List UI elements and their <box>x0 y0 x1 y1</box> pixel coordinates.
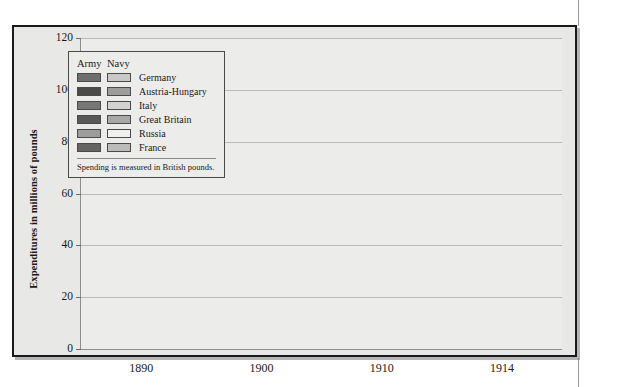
legend-item-france: France <box>77 140 216 154</box>
bar-group-1910: 1910 <box>329 38 435 349</box>
legend-label: Italy <box>139 100 157 111</box>
legend-swatch-navy <box>107 73 131 82</box>
y-tick-mark <box>76 349 81 350</box>
x-axis-label-1900: 1900 <box>208 361 314 376</box>
legend-item-austria-hungary: Austria-Hungary <box>77 84 216 98</box>
legend-label: Great Britain <box>139 114 191 125</box>
legend-item-italy: Italy <box>77 98 216 112</box>
legend-entries: GermanyAustria-HungaryItalyGreat Britain… <box>77 70 216 154</box>
y-tick-label: 20 <box>62 291 74 303</box>
legend-item-germany: Germany <box>77 70 216 84</box>
y-tick-label: 60 <box>62 188 74 200</box>
legend-item-russia: Russia <box>77 126 216 140</box>
legend-swatch-navy <box>107 115 131 124</box>
legend-label: Austria-Hungary <box>139 86 207 97</box>
x-axis-label-1914: 1914 <box>449 361 555 376</box>
legend-label: France <box>139 142 166 153</box>
legend-label: Russia <box>139 128 166 139</box>
page-margin-rule-top <box>578 0 579 26</box>
chart-figure-frame: Expenditures in millions of pounds 02040… <box>12 25 577 357</box>
x-axis-label-1910: 1910 <box>329 361 435 376</box>
legend-header: Army Navy <box>77 58 216 69</box>
legend-swatch-army <box>77 115 101 124</box>
legend-label: Germany <box>139 72 176 83</box>
bar-group-1914: 1914 <box>449 38 555 349</box>
page-margin-rule-bottom <box>578 358 579 387</box>
legend-swatch-navy <box>107 129 131 138</box>
y-tick-label: 40 <box>62 240 74 252</box>
legend-swatch-navy <box>107 101 131 110</box>
legend-note: Spending is measured in British pounds. <box>77 158 216 172</box>
legend-swatch-navy <box>107 143 131 152</box>
legend-swatch-navy <box>107 87 131 96</box>
legend-item-great-britain: Great Britain <box>77 112 216 126</box>
y-tick-label: 120 <box>56 32 73 44</box>
x-axis-label-1890: 1890 <box>88 361 194 376</box>
legend-swatch-army <box>77 143 101 152</box>
legend-swatch-army <box>77 101 101 110</box>
legend-swatch-army <box>77 87 101 96</box>
legend-swatch-army <box>77 129 101 138</box>
legend-swatch-army <box>77 73 101 82</box>
chart-legend: Army Navy GermanyAustria-HungaryItalyGre… <box>68 51 225 178</box>
y-axis-title: Expenditures in millions of pounds <box>28 99 46 319</box>
y-tick-label: 0 <box>67 343 73 355</box>
legend-header-navy: Navy <box>107 58 141 69</box>
legend-header-army: Army <box>77 58 107 69</box>
